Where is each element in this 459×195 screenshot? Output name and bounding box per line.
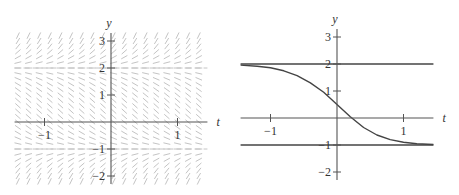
slope-segment [79, 131, 85, 135]
slope-segment [154, 98, 159, 103]
slope-segment [57, 137, 63, 140]
slope-segment [48, 173, 52, 179]
slope-segment [89, 62, 96, 64]
slope-segment [89, 158, 95, 161]
slope-segment [47, 163, 52, 168]
slope-segment [15, 103, 20, 108]
slope-segment [185, 137, 191, 140]
slope-segment [37, 44, 41, 49]
slope-segment [15, 158, 21, 161]
slope-segment [36, 158, 42, 161]
slope-segment [80, 178, 83, 184]
slope-segment [79, 77, 85, 80]
slope-segment [100, 158, 106, 161]
slope-segment [37, 114, 42, 119]
slope-segment [164, 77, 170, 80]
slope-segment [79, 88, 85, 92]
x-tick-label: 1 [401, 124, 407, 138]
slope-segment [121, 88, 127, 92]
slope-segment [111, 168, 115, 173]
slope-segment [143, 88, 149, 92]
y-tick-label: −2 [92, 169, 105, 183]
slope-segment [174, 158, 180, 161]
slope-segment [164, 56, 170, 59]
slope-segment [59, 38, 63, 44]
slope-segment [57, 158, 63, 161]
slope-segment [47, 158, 53, 161]
slope-segment [48, 32, 51, 38]
slope-segment [46, 73, 53, 75]
slope-segment [58, 168, 62, 173]
slope-segment [164, 158, 170, 161]
slope-segment [175, 88, 181, 92]
slope-segment [153, 62, 160, 64]
slope-segment [15, 109, 20, 114]
slope-segment [176, 38, 180, 44]
slope-segment [143, 131, 149, 135]
axes: −11−2−1123ty [241, 12, 447, 180]
slope-segment [90, 88, 96, 92]
slope-segment [68, 158, 74, 161]
slope-segment [47, 88, 53, 92]
slope-segment [69, 38, 73, 44]
slope-segment [68, 98, 73, 103]
slope-segment [133, 178, 136, 184]
slope-segment [142, 77, 148, 80]
slope-segment [142, 62, 149, 64]
slope-segment [175, 168, 179, 173]
slope-segment [143, 103, 148, 108]
slope-segment [186, 44, 190, 49]
slope-segment [164, 93, 169, 97]
slope-segment [165, 178, 168, 184]
slope-segment [27, 173, 31, 179]
slope-segment [154, 114, 159, 119]
slope-segment [79, 82, 85, 86]
slope-segment [57, 62, 64, 64]
slope-segment [164, 49, 169, 54]
slope-segment [132, 131, 138, 135]
slope-segment [153, 73, 160, 75]
slope-segment [25, 137, 31, 140]
slope-segment [90, 103, 95, 108]
slope-segment [15, 114, 20, 119]
slope-segment [132, 56, 138, 59]
slope-segment [26, 125, 32, 129]
slope-field-plot: −11−2−1123ty [0, 0, 230, 195]
slope-segment [187, 32, 190, 38]
slope-segment [100, 82, 106, 86]
slope-segment [37, 173, 41, 179]
slope-segment [132, 125, 138, 129]
slope-segment [79, 103, 84, 108]
slope-segment [153, 143, 160, 145]
slope-segment [100, 114, 105, 119]
slope-segment [132, 88, 138, 92]
slope-segment [57, 77, 63, 80]
slope-segment [58, 163, 63, 168]
slope-segment [153, 137, 159, 140]
slope-segment [58, 109, 63, 114]
slope-segment [79, 49, 84, 54]
slope-segment [153, 88, 159, 92]
slope-segment [48, 168, 52, 173]
slope-segment [37, 163, 42, 168]
slope-segment [197, 44, 201, 49]
y-tick-label: 3 [99, 34, 105, 48]
slope-segment [121, 137, 127, 140]
slope-segment [143, 98, 148, 103]
slope-segment [90, 114, 95, 119]
slope-segment [121, 143, 128, 145]
slope-segment [58, 114, 63, 119]
slope-segment [164, 125, 170, 129]
slope-segment [196, 137, 202, 140]
slope-segment [57, 73, 64, 75]
slope-segment [27, 32, 30, 38]
y-tick-label: 1 [99, 88, 105, 102]
slope-segment [14, 73, 21, 75]
slope-segment [185, 154, 192, 156]
slope-segment [36, 62, 43, 64]
slope-segment [123, 178, 126, 184]
slope-segment [37, 109, 42, 114]
slope-segment [154, 103, 159, 108]
slope-segment [132, 103, 137, 108]
slope-segment [196, 109, 201, 114]
